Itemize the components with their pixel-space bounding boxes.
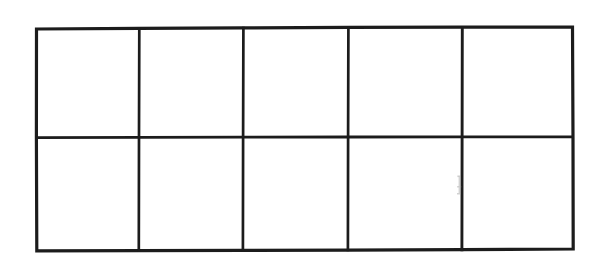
grid-cell-r2c3[interactable] — [243, 137, 348, 250]
grid-cell-r2c2[interactable] — [139, 137, 243, 250]
grid-cell-r1c4[interactable] — [348, 28, 462, 137]
grid-cell-r2c4[interactable] — [348, 137, 462, 250]
grid-cell-r1c5[interactable] — [462, 28, 573, 137]
grid-cell-r1c1[interactable] — [36, 28, 139, 137]
grid-cell-r2c1[interactable] — [36, 137, 139, 250]
grid-cell-r2c5[interactable] — [462, 137, 573, 250]
grid-canvas — [0, 0, 597, 273]
grid-cell-r1c3[interactable] — [243, 28, 348, 137]
grid-cell-r1c2[interactable] — [139, 28, 243, 137]
